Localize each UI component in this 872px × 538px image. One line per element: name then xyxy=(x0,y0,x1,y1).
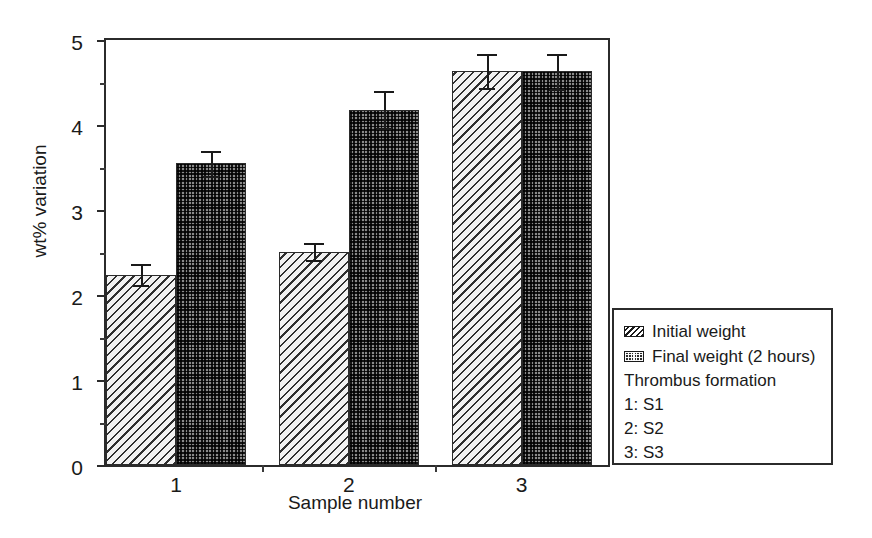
legend-entry-final-weight[interactable]: Final weight (2 hours) xyxy=(624,344,821,369)
error-bar-cap xyxy=(547,54,567,56)
legend-note-s1: 1: S1 xyxy=(624,393,821,417)
bar xyxy=(452,71,522,465)
error-bar xyxy=(211,151,213,177)
legend-note-s3: 3: S3 xyxy=(624,441,821,465)
y-axis-tick-label: 3 xyxy=(71,202,83,223)
error-bar xyxy=(384,91,386,128)
x-axis-tick-label: 2 xyxy=(343,474,355,495)
y-axis-minor-tick xyxy=(100,253,106,255)
error-bar xyxy=(314,243,316,260)
diagonal-hatch-swatch-icon xyxy=(624,326,644,337)
y-axis-minor-tick xyxy=(100,83,106,85)
plot-area: 012345123 xyxy=(104,38,610,467)
y-axis-title: wt% variation xyxy=(29,101,51,301)
y-axis-tick-label: 4 xyxy=(71,117,83,138)
error-bar-cap xyxy=(477,54,497,56)
error-bar-cap xyxy=(306,260,322,262)
bar xyxy=(279,252,349,465)
y-axis-tick-label: 5 xyxy=(71,32,83,53)
x-axis-tick-label: 1 xyxy=(170,474,182,495)
legend-entry-initial-weight[interactable]: Initial weight xyxy=(624,319,821,344)
checker-swatch-icon xyxy=(624,351,644,362)
y-axis-tick-label: 0 xyxy=(71,457,83,478)
error-bar xyxy=(141,264,143,284)
bar xyxy=(176,163,246,465)
x-axis-minor-tick xyxy=(435,465,437,472)
error-bar-cap xyxy=(304,243,324,245)
y-axis-tick: 5 xyxy=(97,40,106,42)
y-axis-tick: 4 xyxy=(97,125,106,127)
error-bar-cap xyxy=(376,128,392,130)
y-axis-tick: 3 xyxy=(97,210,106,212)
x-axis-minor-tick xyxy=(262,465,264,472)
y-axis-tick: 2 xyxy=(97,295,106,297)
x-axis-tick-label: 3 xyxy=(516,474,528,495)
legend-label-initial-weight: Initial weight xyxy=(652,322,746,342)
error-bar-cap xyxy=(549,89,565,91)
plot-inner: 012345123 xyxy=(106,40,608,465)
error-bar-cap xyxy=(133,285,149,287)
legend-note-heading: Thrombus formation xyxy=(624,369,821,393)
error-bar-cap xyxy=(201,151,221,153)
bar xyxy=(106,275,176,465)
error-bar-cap xyxy=(131,264,151,266)
error-bar xyxy=(557,54,559,90)
y-axis-tick: 1 xyxy=(97,380,106,382)
error-bar xyxy=(487,54,489,88)
bar-chart-figure: wt% variation Sample number 012345123 In… xyxy=(0,0,872,538)
y-axis-tick-label: 2 xyxy=(71,287,83,308)
legend-note-s2: 2: S2 xyxy=(624,417,821,441)
bar xyxy=(522,71,592,465)
y-axis-tick: 0 xyxy=(97,465,106,467)
error-bar-cap xyxy=(479,88,495,90)
y-axis-tick-label: 1 xyxy=(71,372,83,393)
y-axis-minor-tick xyxy=(100,168,106,170)
error-bar-cap xyxy=(203,176,219,178)
legend-box: Initial weight Final weight (2 hours) Th… xyxy=(612,308,833,465)
legend-label-final-weight: Final weight (2 hours) xyxy=(652,347,815,367)
error-bar-cap xyxy=(374,91,394,93)
bar xyxy=(349,110,419,465)
